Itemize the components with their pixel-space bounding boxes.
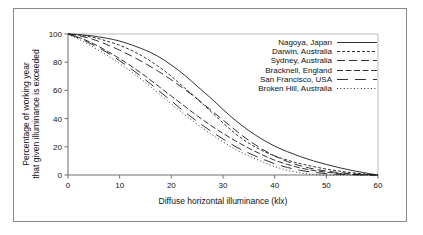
plot-area: 0102030405060020406080100 Diffuse horizo… (0, 0, 423, 235)
legend-line-swatch (336, 56, 378, 65)
legend-label: Broken Hill, Australia (258, 84, 332, 93)
x-tick-label: 0 (66, 181, 70, 190)
x-tick-label: 20 (167, 181, 176, 190)
y-tick-label: 20 (40, 142, 62, 151)
legend-item[interactable]: Sydney, Australia (232, 56, 378, 65)
legend: Nagoya, JapanDarwin, AustraliaSydney, Au… (232, 38, 378, 93)
legend-line-swatch (336, 75, 378, 84)
x-tick-label: 30 (219, 181, 228, 190)
x-tick-label: 10 (115, 181, 124, 190)
y-axis-label: Percentage of working year that given il… (21, 39, 41, 189)
y-tick-label: 60 (40, 86, 62, 95)
x-axis-label: Diffuse horizontal illuminance (klx) (68, 196, 378, 206)
legend-line-swatch (336, 47, 378, 56)
y-tick-label: 80 (40, 58, 62, 67)
legend-label: San Francisco, USA (260, 75, 332, 84)
x-tick-label: 40 (270, 181, 279, 190)
x-tick-label: 60 (374, 181, 383, 190)
legend-line-swatch (336, 84, 378, 93)
y-tick-label: 100 (40, 30, 62, 39)
legend-label: Sydney, Australia (271, 56, 332, 65)
legend-item[interactable]: Darwin, Australia (232, 47, 378, 56)
legend-label: Bracknell, England (265, 66, 332, 75)
legend-label: Nagoya, Japan (278, 38, 332, 47)
x-tick-label: 50 (322, 181, 331, 190)
figure-container: 0102030405060020406080100 Diffuse horizo… (0, 0, 423, 235)
y-tick-label: 0 (40, 171, 62, 180)
legend-item[interactable]: San Francisco, USA (232, 75, 378, 84)
legend-item[interactable]: Bracknell, England (232, 66, 378, 75)
legend-item[interactable]: Nagoya, Japan (232, 38, 378, 47)
y-axis-label-line1: Percentage of working year (21, 39, 31, 189)
legend-line-swatch (336, 66, 378, 75)
legend-line-swatch (336, 38, 378, 47)
legend-item[interactable]: Broken Hill, Australia (232, 84, 378, 93)
legend-label: Darwin, Australia (272, 47, 332, 56)
y-axis-label-line2: that given illuminance is exceeded (31, 39, 41, 189)
y-tick-label: 40 (40, 114, 62, 123)
